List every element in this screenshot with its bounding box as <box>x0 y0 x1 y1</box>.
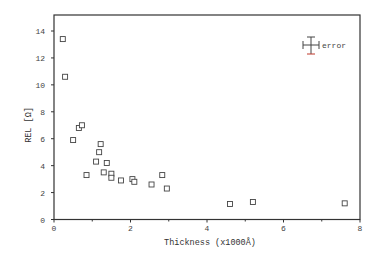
data-point <box>160 173 165 178</box>
data-point <box>98 142 103 147</box>
data-point <box>71 138 76 143</box>
data-point <box>149 182 154 187</box>
error-bar-icon <box>303 37 319 54</box>
x-tick-label: 6 <box>281 224 286 233</box>
data-point <box>84 173 89 178</box>
data-point <box>250 199 255 204</box>
data-point <box>109 175 114 180</box>
data-points <box>60 37 347 207</box>
data-point <box>227 202 232 207</box>
x-tick-label: 4 <box>205 224 210 233</box>
data-point <box>101 170 106 175</box>
data-point <box>104 160 109 165</box>
x-tick-label: 2 <box>128 224 133 233</box>
x-tick-label: 8 <box>358 224 363 233</box>
data-point <box>132 179 137 184</box>
x-tick-label: 0 <box>52 224 57 233</box>
y-tick-label: 12 <box>35 54 45 63</box>
data-point <box>94 159 99 164</box>
data-point <box>63 74 68 79</box>
y-tick-label: 6 <box>40 135 45 144</box>
y-tick-label: 14 <box>35 27 45 36</box>
scatter-chart: 02468101214 02468 error Thickness (x1000… <box>0 0 380 259</box>
y-tick-label: 2 <box>40 189 45 198</box>
y-tick-label: 0 <box>40 216 45 225</box>
x-axis-title: Thickness (x1000Å) <box>164 237 256 248</box>
data-point <box>79 123 84 128</box>
y-axis-title: REL [Ω] <box>24 107 34 143</box>
data-point <box>60 37 65 42</box>
plot-frame <box>54 15 360 220</box>
legend-label: error <box>322 41 346 50</box>
y-tick-label: 4 <box>40 162 45 171</box>
data-point <box>97 150 102 155</box>
data-point <box>342 201 347 206</box>
y-tick-label: 8 <box>40 108 45 117</box>
y-tick-label: 10 <box>35 81 45 90</box>
y-axis-ticks: 02468101214 <box>35 27 54 225</box>
x-axis-ticks: 02468 <box>52 220 363 233</box>
legend: error <box>303 37 346 54</box>
data-point <box>164 186 169 191</box>
data-point <box>118 178 123 183</box>
